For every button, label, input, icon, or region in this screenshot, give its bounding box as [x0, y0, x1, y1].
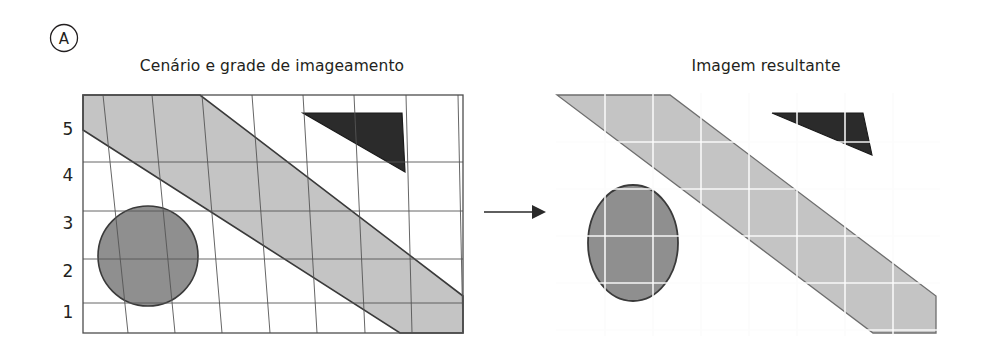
- left-panel: [83, 95, 463, 333]
- axis-label-2: 2: [63, 261, 74, 281]
- left-circle-feature: [98, 206, 198, 306]
- axis-label-1: 1: [63, 302, 74, 322]
- panel-letter-text: A: [59, 30, 70, 48]
- axis-label-4: 4: [63, 165, 74, 185]
- right-panel: [556, 93, 940, 336]
- axis-label-5: 5: [63, 119, 74, 139]
- right-panel-title: Imagem resultante: [691, 57, 840, 75]
- axis-label-3: 3: [63, 213, 74, 233]
- figure-root: A Cenário e grade de imageamento Imagem …: [0, 0, 986, 362]
- left-panel-title: Cenário e grade de imageamento: [140, 57, 404, 75]
